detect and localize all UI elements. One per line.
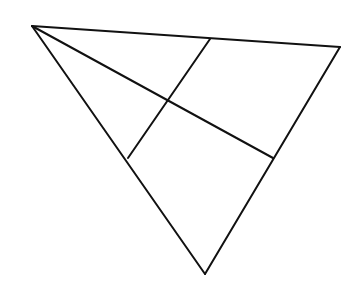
side-bc [205, 47, 340, 274]
side-ca [32, 26, 205, 274]
diagram-segments [32, 26, 340, 274]
segment-aq [32, 26, 273, 158]
triangle-diagram [0, 0, 362, 287]
segment-pr [128, 39, 210, 158]
side-ab [32, 26, 340, 47]
